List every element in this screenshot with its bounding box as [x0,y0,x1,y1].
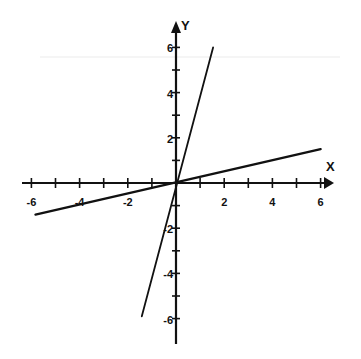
shallow-line-series [36,149,321,215]
x-axis-title: X [326,159,335,174]
x-tick-label: 2 [221,196,227,208]
y-tick-label: -4 [163,268,174,280]
data-series [36,47,321,316]
y-tick-label: -6 [163,314,173,326]
x-tick-label: 6 [318,196,324,208]
x-tick-label: -6 [27,196,37,208]
y-tick-label: 2 [167,133,173,145]
y-axis-arrow-icon [171,21,181,33]
y-axis-title: Y [181,18,190,33]
x-axis-arrow-icon [324,177,334,189]
y-tick-label: 6 [167,42,173,54]
coordinate-plane-chart: -6-4-2246642-2-4-6 X Y [0,0,361,359]
x-tick-label: 4 [269,196,276,208]
y-tick-label: 4 [167,88,174,100]
x-tick-label: -2 [123,196,133,208]
